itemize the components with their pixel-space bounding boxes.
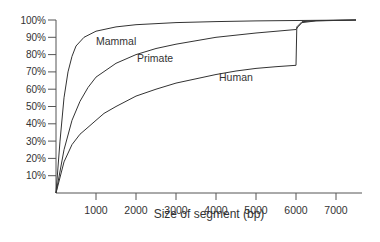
y-tick-label: 30% <box>26 136 46 147</box>
series-label-human: Human <box>219 71 253 83</box>
x-axis-label: Size of segment (bp) <box>154 207 265 221</box>
y-tick-label: 20% <box>26 153 46 164</box>
x-tick-label: 6000 <box>284 204 308 216</box>
x-tick-label: 2000 <box>124 204 148 216</box>
x-tick-label: 1000 <box>84 204 108 216</box>
x-tick-label: 7000 <box>324 204 348 216</box>
y-tick-label: 100% <box>20 15 46 26</box>
y-tick-label: 70% <box>26 66 46 77</box>
y-tick-label: 60% <box>26 84 46 95</box>
y-tick-label: 50% <box>26 101 46 112</box>
y-tick-label: 40% <box>26 118 46 129</box>
chart-container: 10%20%30%40%50%60%70%80%90%100%100020003… <box>0 0 380 242</box>
series-labels: MammalPrimateHuman <box>96 35 253 83</box>
y-tick-label: 80% <box>26 49 46 60</box>
cumulative-segment-chart: 10%20%30%40%50%60%70%80%90%100%100020003… <box>0 0 380 242</box>
series-label-mammal: Mammal <box>96 35 136 47</box>
y-tick-label: 90% <box>26 32 46 43</box>
y-tick-label: 10% <box>26 170 46 181</box>
series-label-primate: Primate <box>137 52 173 64</box>
axes: 10%20%30%40%50%60%70%80%90%100%100020003… <box>20 15 362 217</box>
